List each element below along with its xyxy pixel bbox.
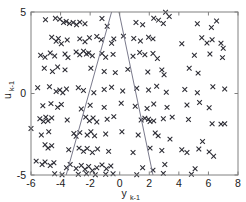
x-tick-label: 4 xyxy=(176,177,182,189)
y-axis-label: u k-1 xyxy=(1,81,16,99)
x-axis-label-base: y xyxy=(121,187,127,199)
x-tick-label: -4 xyxy=(56,177,65,189)
y-tick-label: 0 xyxy=(20,87,26,99)
y-tick-label: 5 xyxy=(20,6,26,18)
x-axis-label-subscript: k-1 xyxy=(130,193,140,202)
x-tick-label: -6 xyxy=(26,177,35,189)
y-axis-ticklabels-group: -505 xyxy=(17,6,27,181)
plot-canvas: -6-4-202468 -505 y k-1 u k-1 xyxy=(0,0,246,202)
x-tick-label: 8 xyxy=(235,177,241,189)
y-axis-label-base: u xyxy=(1,93,13,99)
y-tick-label: -5 xyxy=(17,169,26,181)
x-tick-label: 6 xyxy=(206,177,212,189)
x-tick-label: 2 xyxy=(146,177,152,189)
x-axis-ticklabels-group: -6-4-202468 xyxy=(26,177,241,189)
x-tick-label: -2 xyxy=(85,177,94,189)
y-axis-label-subscript: k-1 xyxy=(7,81,16,91)
scatter-plot-figure: -6-4-202468 -505 y k-1 u k-1 xyxy=(0,0,246,202)
x-axis-label: y k-1 xyxy=(121,187,140,202)
